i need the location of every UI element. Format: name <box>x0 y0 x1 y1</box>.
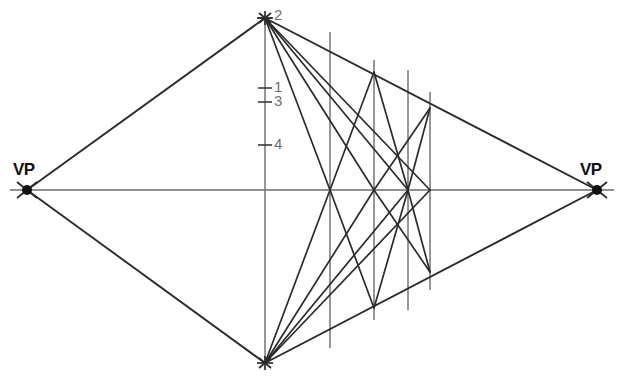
diagram-svg <box>0 0 623 390</box>
vp-left-label: VP <box>13 160 35 180</box>
edge-right-lower <box>265 190 597 363</box>
vp-right-dot <box>592 185 602 195</box>
top-apex-diagonal-4 <box>265 18 430 190</box>
tick-label-4: 4 <box>274 135 282 152</box>
edge-left-lower <box>27 190 265 363</box>
edge-right-upper <box>265 18 597 190</box>
vp-right-label: VP <box>580 160 602 180</box>
edge-left-upper <box>27 18 265 190</box>
bottom-apex-diagonal-4 <box>265 190 430 363</box>
zigzag-lower-4 <box>374 190 430 272</box>
perspective-diagram-canvas: VP VP 2134 <box>0 0 623 390</box>
bottom-apex-diagonal-3 <box>265 190 408 363</box>
zigzag-upper-4 <box>374 108 430 190</box>
tick-label-2: 2 <box>274 6 282 23</box>
top-apex-diagonal-3 <box>265 18 408 190</box>
tick-label-3: 3 <box>274 92 282 109</box>
vp-left-dot <box>22 185 32 195</box>
